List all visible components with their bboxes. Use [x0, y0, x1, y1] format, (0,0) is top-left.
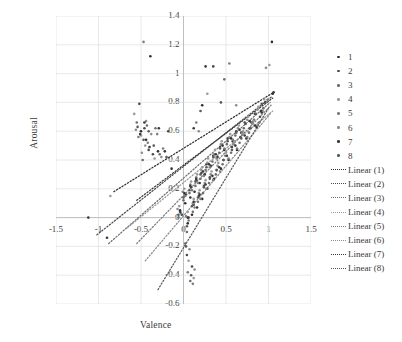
data-point [234, 134, 237, 137]
data-point [204, 65, 207, 68]
data-point [194, 180, 197, 183]
data-point [247, 116, 250, 119]
data-point [194, 185, 197, 188]
data-point [199, 177, 202, 180]
legend-dotted-line-icon [330, 240, 347, 241]
legend-item-marker[interactable]: 3 [330, 78, 402, 92]
data-point [135, 128, 138, 131]
legend-item-trendline[interactable]: Linear (8) [330, 261, 402, 275]
data-point [272, 91, 275, 94]
data-point [152, 144, 155, 147]
legend-marker-dot-icon [330, 70, 347, 73]
trendline [158, 108, 269, 289]
data-point [188, 189, 191, 192]
legend-marker-label: 8 [347, 151, 353, 161]
legend-item-trendline[interactable]: Linear (7) [330, 247, 402, 261]
data-point [192, 211, 195, 214]
data-point [157, 150, 160, 153]
data-point [189, 280, 192, 283]
legend-trendline-label: Linear (3) [347, 193, 384, 203]
data-point [208, 163, 211, 166]
legend-marker-dot-icon [330, 112, 347, 115]
data-point [256, 108, 259, 111]
scatter-series [137, 41, 269, 286]
data-point [240, 137, 243, 140]
data-point [167, 130, 170, 133]
trendline [114, 92, 274, 191]
legend-item-trendline[interactable]: Linear (5) [330, 219, 402, 233]
data-point [143, 127, 146, 130]
data-point [186, 216, 189, 219]
legend-marker-dot-icon [330, 98, 347, 101]
data-point [214, 149, 217, 152]
data-point [160, 156, 163, 159]
legend-marker-label: 4 [347, 94, 353, 104]
data-point [147, 130, 150, 133]
data-point [220, 140, 223, 143]
legend-item-marker[interactable]: 2 [330, 64, 402, 78]
data-point [220, 101, 223, 104]
scatter-series [109, 64, 271, 280]
data-point [199, 110, 202, 113]
legend-trendline-label: Linear (7) [347, 249, 384, 259]
data-point [187, 260, 190, 263]
data-point [263, 98, 266, 101]
data-point [150, 133, 153, 136]
legend-marker-label: 3 [347, 80, 353, 90]
data-point [147, 141, 150, 144]
legend-item-marker[interactable]: 7 [330, 135, 402, 149]
data-point [109, 195, 112, 198]
legend-item-trendline[interactable]: Linear (2) [330, 177, 402, 191]
data-point [262, 107, 265, 110]
data-point [144, 144, 147, 147]
data-point [195, 121, 198, 124]
data-point [145, 139, 148, 142]
data-point [268, 64, 271, 67]
legend-item-trendline[interactable]: Linear (3) [330, 191, 402, 205]
data-point [138, 103, 141, 106]
data-point [190, 180, 193, 183]
data-point [238, 141, 241, 144]
legend-item-marker[interactable]: 6 [330, 120, 402, 134]
legend-dotted-line-icon [330, 212, 347, 213]
data-point [204, 179, 207, 182]
data-point [208, 182, 211, 185]
data-point [235, 131, 238, 134]
data-point [258, 121, 261, 124]
data-point [141, 152, 144, 155]
data-point [228, 62, 231, 65]
data-point [203, 186, 206, 189]
data-point [142, 139, 145, 142]
legend-item-trendline[interactable]: Linear (1) [330, 163, 402, 177]
data-point [229, 133, 232, 136]
legend-item-marker[interactable]: 8 [330, 149, 402, 163]
data-point [191, 265, 194, 268]
legend-marker-dot-icon [330, 140, 347, 143]
data-point [197, 196, 200, 199]
legend-marker-dot-icon [330, 84, 347, 87]
data-point [87, 216, 90, 219]
data-point [186, 231, 189, 234]
data-point [186, 211, 189, 214]
legend-marker-dot-icon [330, 154, 347, 157]
data-point [201, 166, 204, 169]
data-point [142, 41, 145, 44]
legend-dotted-line-icon [330, 183, 347, 184]
data-point [259, 116, 262, 119]
data-point [212, 65, 215, 68]
legend-dotted-line-icon [330, 169, 347, 170]
data-point [203, 175, 206, 178]
data-point [154, 127, 157, 130]
legend-item-trendline[interactable]: Linear (6) [330, 233, 402, 247]
data-point [179, 211, 182, 214]
data-point [187, 219, 190, 222]
legend-item-marker[interactable]: 1 [330, 50, 402, 64]
legend-item-marker[interactable]: 5 [330, 106, 402, 120]
data-point [191, 213, 194, 216]
data-point [176, 208, 179, 211]
legend-trendline-label: Linear (8) [347, 263, 384, 273]
chart-legend: 12345678Linear (1)Linear (2)Linear (3)Li… [330, 50, 402, 276]
legend-item-marker[interactable]: 4 [330, 92, 402, 106]
data-point [211, 160, 214, 163]
legend-item-trendline[interactable]: Linear (4) [330, 205, 402, 219]
